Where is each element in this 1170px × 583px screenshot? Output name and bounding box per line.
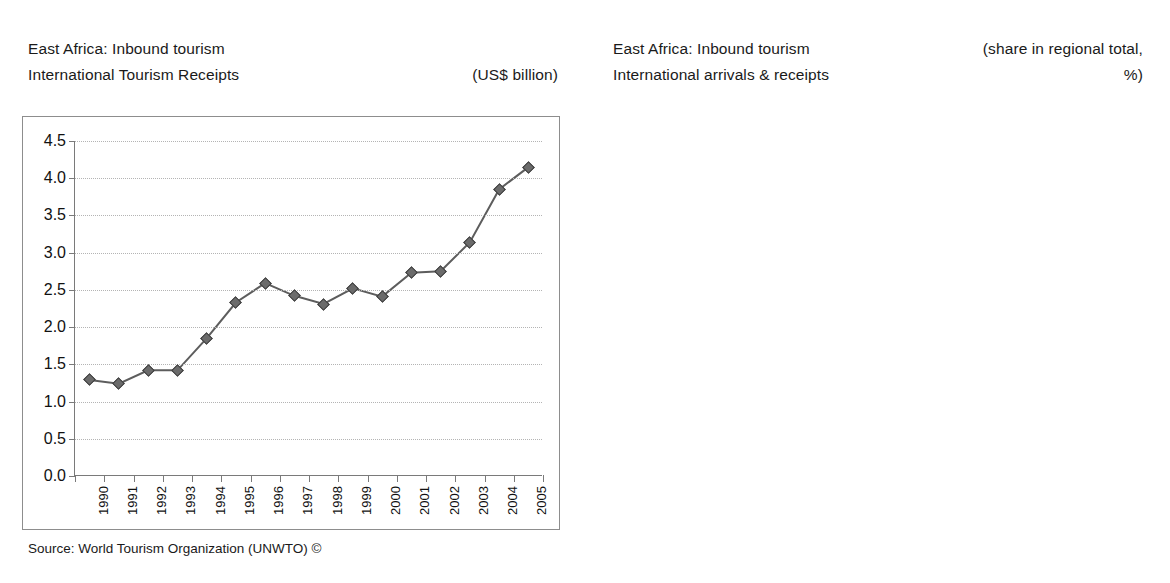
gridline <box>75 141 542 142</box>
x-axis-tick <box>455 475 456 482</box>
x-axis-year-label: 1997 <box>300 486 315 515</box>
x-axis-tick <box>221 475 222 482</box>
receipts-line-series <box>75 141 543 476</box>
x-axis-tick <box>75 475 76 482</box>
y-axis-tick <box>69 327 75 328</box>
left-chart-source-note: Source: World Tourism Organization (UNWT… <box>28 541 322 556</box>
x-axis-year-label: 1999 <box>359 486 374 515</box>
right-chart-title-line2: International arrivals & receipts <box>613 62 829 88</box>
y-axis-tick-label: 1.5 <box>44 355 66 373</box>
left-chart-panel: East Africa: Inbound tourism Internation… <box>0 0 585 583</box>
x-axis-tick <box>368 475 369 482</box>
y-axis-tick <box>69 141 75 142</box>
x-axis-year-label: 1994 <box>213 486 228 515</box>
x-axis-year-label: 1993 <box>183 486 198 515</box>
x-axis-tick <box>426 475 427 482</box>
left-chart-title-line2: International Tourism Receipts <box>28 62 239 88</box>
x-axis-year-label: 1991 <box>125 486 140 515</box>
gridline <box>75 439 542 440</box>
y-axis-tick-label: 3.5 <box>44 206 66 224</box>
y-axis-tick <box>69 215 75 216</box>
y-axis-tick-label: 4.5 <box>44 132 66 150</box>
right-chart-unit-line2: %) <box>1124 62 1143 88</box>
x-axis-year-label: 1992 <box>154 486 169 515</box>
x-axis-year-label: 1996 <box>271 486 286 515</box>
x-axis-year-label: 2001 <box>417 486 432 515</box>
gridline <box>75 215 542 216</box>
x-axis-tick <box>485 475 486 482</box>
x-axis-tick <box>543 475 544 482</box>
x-axis-tick <box>192 475 193 482</box>
gridline <box>75 178 542 179</box>
x-axis-tick <box>104 475 105 482</box>
right-chart-title-line1: East Africa: Inbound tourism <box>613 36 810 62</box>
y-axis-tick <box>69 402 75 403</box>
x-axis-year-label: 2000 <box>388 486 403 515</box>
x-axis-year-label: 1990 <box>96 486 111 515</box>
right-chart-panel: East Africa: Inbound tourism (share in r… <box>585 0 1170 583</box>
y-axis-tick-label: 0.0 <box>44 467 66 485</box>
y-axis-tick <box>69 439 75 440</box>
left-chart-title-block: East Africa: Inbound tourism Internation… <box>28 36 558 88</box>
x-axis-tick <box>338 475 339 482</box>
x-axis-tick <box>309 475 310 482</box>
y-axis-tick-label: 2.0 <box>44 318 66 336</box>
x-axis-tick <box>251 475 252 482</box>
y-axis-tick-label: 2.5 <box>44 281 66 299</box>
left-chart-title-line1: East Africa: Inbound tourism <box>28 36 225 62</box>
right-chart-title-block: East Africa: Inbound tourism (share in r… <box>613 36 1143 88</box>
x-axis-tick <box>134 475 135 482</box>
x-axis-year-label: 2005 <box>534 486 549 515</box>
x-axis-year-label: 2002 <box>447 486 462 515</box>
y-axis-tick <box>69 364 75 365</box>
gridline <box>75 327 542 328</box>
gridline <box>75 364 542 365</box>
y-axis-tick <box>69 290 75 291</box>
x-axis-tick <box>280 475 281 482</box>
x-axis-year-label: 2004 <box>505 486 520 515</box>
gridline <box>75 402 542 403</box>
gridline <box>75 290 542 291</box>
x-axis-tick <box>163 475 164 482</box>
y-axis-tick <box>69 178 75 179</box>
line-chart-plot-area: 0.00.51.01.52.02.53.03.54.04.51990199119… <box>74 141 542 476</box>
right-chart-unit-line1: (share in regional total, <box>983 36 1143 62</box>
y-axis-tick-label: 3.0 <box>44 244 66 262</box>
x-axis-year-label: 2003 <box>476 486 491 515</box>
y-axis-tick-label: 4.0 <box>44 169 66 187</box>
x-axis-tick <box>397 475 398 482</box>
x-axis-year-label: 1998 <box>330 486 345 515</box>
y-axis-tick <box>69 253 75 254</box>
gridline <box>75 253 542 254</box>
y-axis-tick-label: 0.5 <box>44 430 66 448</box>
x-axis-tick <box>514 475 515 482</box>
y-axis-tick-label: 1.0 <box>44 393 66 411</box>
left-chart-unit-label: (US$ billion) <box>472 62 558 88</box>
x-axis-year-label: 1995 <box>242 486 257 515</box>
left-chart-frame: 0.00.51.01.52.02.53.03.54.04.51990199119… <box>22 116 560 530</box>
